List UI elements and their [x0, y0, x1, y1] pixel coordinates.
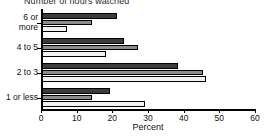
bar [42, 95, 92, 101]
y-axis-tick-label: 4 to 5 [0, 43, 38, 53]
bar [42, 45, 138, 51]
y-axis-tick [37, 23, 41, 24]
y-axis-tick-label: 1 or less [0, 93, 38, 103]
x-axis-title: Percent [41, 122, 255, 132]
y-axis-category-label: 2 to 3 [0, 68, 38, 78]
bar [42, 38, 124, 44]
y-axis-category-label: 6 ormore [0, 13, 38, 32]
bar [42, 101, 145, 107]
y-axis-tick [37, 98, 41, 99]
y-axis-category-label: 1 or less [0, 93, 38, 103]
y-axis-tick [37, 48, 41, 49]
category-axis-labels: 1 or less2 to 34 to 56 ormore [0, 9, 38, 109]
y-axis-tick-label: 2 to 3 [0, 68, 38, 78]
bar [42, 70, 203, 76]
plot-area: 0102030405060 [41, 9, 255, 109]
bar [42, 26, 67, 32]
bar [42, 51, 106, 57]
bar [42, 88, 110, 94]
bar [42, 63, 178, 69]
bar [42, 13, 117, 19]
y-axis-category-label: 4 to 5 [0, 43, 38, 53]
bar [42, 20, 92, 26]
bar-chart: Number of hours watched 1 or less2 to 34… [0, 0, 266, 138]
y-axis-tick [37, 73, 41, 74]
y-axis-tick-label: more [0, 23, 38, 33]
bar [42, 76, 206, 82]
chart-title: Number of hours watched [24, 0, 224, 6]
